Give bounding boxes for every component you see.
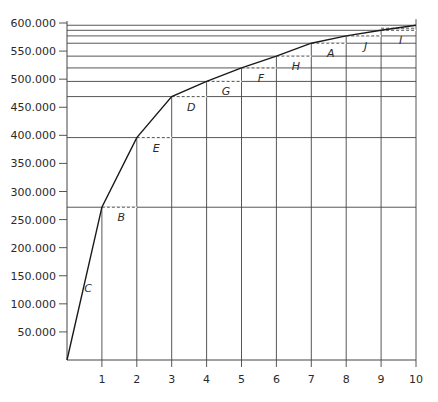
- x-tick-label: 10: [409, 373, 423, 386]
- region-label-f: F: [258, 72, 265, 85]
- x-tick-label: 1: [98, 373, 105, 386]
- x-tick-label: 3: [168, 373, 175, 386]
- y-tick-label: 550.000: [11, 45, 57, 58]
- y-tick-label: 500.000: [11, 73, 57, 86]
- y-tick-label: 400.000: [11, 129, 57, 142]
- y-tick-label: 200.000: [11, 242, 57, 255]
- region-label-j: J: [362, 40, 367, 53]
- x-tick-label: 5: [238, 373, 245, 386]
- region-label-h: H: [292, 60, 300, 73]
- region-label-c: C: [84, 282, 92, 295]
- region-label-g: G: [222, 85, 231, 98]
- x-tick-label: 4: [203, 373, 210, 386]
- x-tick-label: 6: [273, 373, 280, 386]
- y-tick-label: 150.000: [11, 270, 57, 283]
- x-tick-label: 2: [133, 373, 140, 386]
- y-tick-label: 250.000: [11, 214, 57, 227]
- y-axis-ticks: 50.000100.000150.000200.000250.000300.00…: [11, 17, 68, 339]
- x-tick-label: 7: [308, 373, 315, 386]
- y-tick-label: 350.000: [11, 157, 57, 170]
- region-label-b: B: [118, 211, 126, 224]
- region-labels: CBEDGFHAJI: [84, 34, 402, 295]
- y-tick-label: 450.000: [11, 101, 57, 114]
- y-tick-label: 50.000: [18, 326, 57, 339]
- y-tick-label: 300.000: [11, 186, 57, 199]
- region-label-d: D: [187, 101, 195, 114]
- y-tick-label: 600.000: [11, 17, 57, 30]
- region-label-e: E: [153, 142, 160, 155]
- chart: 50.000100.000150.000200.000250.000300.00…: [0, 0, 438, 402]
- x-axis-ticks: 12345678910: [98, 373, 423, 386]
- y-tick-label: 100.000: [11, 298, 57, 311]
- region-label-a: A: [326, 47, 335, 60]
- region-label-i: I: [399, 34, 402, 47]
- x-tick-label: 8: [343, 373, 350, 386]
- x-tick-label: 9: [378, 373, 385, 386]
- step-dashed-lines: [102, 28, 416, 207]
